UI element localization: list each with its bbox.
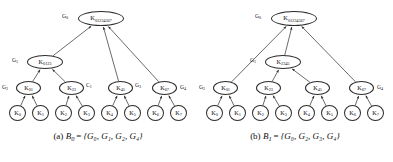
edge-b-k3-to-b-i23 bbox=[273, 96, 279, 106]
group-tag-c1: C1 bbox=[86, 83, 92, 89]
group-tag-subscript: 1 bbox=[254, 59, 256, 64]
key-subscript: 0 bbox=[19, 112, 21, 117]
key-node-k1: K1 bbox=[32, 105, 49, 121]
key-node-label: K45 bbox=[313, 85, 322, 91]
key-symbol: K bbox=[211, 109, 215, 116]
key-node-k7: K7 bbox=[170, 105, 187, 121]
figure-container: K01234567K0123K01K23K45K67K0K1K2K3K4K5K6… bbox=[0, 0, 393, 162]
group-tag-subscript: 1 bbox=[16, 59, 18, 64]
edge-b-i23-to-b-mid bbox=[272, 70, 278, 81]
group-tag-subscript: 0 bbox=[66, 15, 68, 20]
key-node-k01234567: K01234567 bbox=[78, 11, 124, 26]
figure-panel-b: K01234567K2345K01K23K45K67K0K1K2K3K4K5K6… bbox=[197, 0, 393, 162]
key-node-k45: K45 bbox=[305, 81, 330, 95]
group-tag-g3: G3 bbox=[135, 83, 141, 89]
key-subscript: 0123 bbox=[43, 61, 51, 66]
key-node-label: K6 bbox=[152, 110, 159, 116]
key-subscript: 4 bbox=[111, 112, 113, 117]
edge-a-k3-to-a-i23 bbox=[76, 96, 82, 106]
group-tag-g1: G1 bbox=[12, 58, 18, 64]
group-tag-g2: G2 bbox=[199, 85, 205, 91]
key-symbol: K bbox=[116, 84, 120, 91]
key-node-k5: K5 bbox=[124, 105, 141, 121]
key-tree-graph-b: K01234567K2345K01K23K45K67K0K1K2K3K4K5K6… bbox=[197, 0, 393, 128]
key-subscript: 6 bbox=[354, 112, 356, 117]
key-subscript: 7 bbox=[180, 112, 182, 117]
key-subscript: 67 bbox=[362, 87, 366, 92]
key-symbol: K bbox=[313, 84, 317, 91]
key-symbol: K bbox=[106, 109, 110, 116]
key-node-k67: K67 bbox=[349, 81, 374, 95]
key-node-label: K7 bbox=[175, 110, 182, 116]
key-symbol: K bbox=[234, 109, 238, 116]
key-symbol: K bbox=[349, 109, 353, 116]
edge-a-k1-to-a-i01 bbox=[32, 96, 37, 106]
group-tag-g2: G2 bbox=[2, 85, 8, 91]
key-node-label: K0123 bbox=[39, 59, 52, 65]
key-node-label: K23 bbox=[264, 85, 273, 91]
edge-a-i01-to-a-mid bbox=[33, 70, 40, 82]
caption-a-prefix: (a) bbox=[53, 131, 63, 141]
key-node-k6: K6 bbox=[147, 105, 164, 121]
key-node-label: K67 bbox=[160, 85, 169, 91]
key-symbol: K bbox=[280, 109, 284, 116]
key-node-label: K3 bbox=[280, 110, 287, 116]
key-subscript: 2345 bbox=[281, 61, 289, 66]
key-tree-graph-a: K01234567K0123K01K23K45K67K0K1K2K3K4K5K6… bbox=[0, 0, 196, 128]
group-tag-g4: G4 bbox=[180, 85, 186, 91]
key-node-label: K0 bbox=[211, 110, 218, 116]
edge-b-k4-to-b-i45 bbox=[310, 96, 314, 106]
edge-b-i01-to-b-root bbox=[232, 26, 287, 81]
key-subscript: 67 bbox=[165, 87, 169, 92]
caption-b: (b) B1={G₀, G₂, G₃, G₄} bbox=[197, 131, 393, 142]
group-tag-subscript: 1 bbox=[90, 84, 92, 89]
key-node-k2: K2 bbox=[55, 105, 72, 121]
key-node-label: K01234567 bbox=[283, 15, 304, 21]
key-symbol: K bbox=[129, 109, 133, 116]
edge-b-k2-to-b-i23 bbox=[263, 96, 266, 105]
key-node-k0: K0 bbox=[206, 105, 223, 121]
key-node-k0: K0 bbox=[9, 105, 26, 121]
key-node-k2: K2 bbox=[252, 105, 269, 121]
caption-a-subscript: 0 bbox=[71, 135, 74, 142]
key-subscript: 01234567 bbox=[288, 18, 305, 23]
key-node-label: K2 bbox=[60, 110, 67, 116]
key-subscript: 2 bbox=[262, 112, 264, 117]
key-symbol: K bbox=[264, 84, 268, 91]
key-subscript: 3 bbox=[88, 112, 90, 117]
key-subscript: 01 bbox=[226, 87, 230, 92]
edge-b-k1-to-b-i01 bbox=[229, 96, 234, 106]
key-subscript: 5 bbox=[134, 112, 136, 117]
caption-b-prefix: (b) bbox=[250, 131, 261, 141]
key-subscript: 2 bbox=[65, 112, 67, 117]
key-node-label: K7 bbox=[372, 110, 379, 116]
edge-a-k0-to-a-i01 bbox=[21, 96, 25, 106]
group-tag-subscript: 0 bbox=[259, 15, 261, 20]
caption-b-set: {G₀, G₂, G₃, G₄} bbox=[281, 131, 340, 141]
key-node-k01: K01 bbox=[16, 81, 41, 95]
edge-a-k5-to-a-i45 bbox=[124, 96, 129, 106]
key-node-k67: K67 bbox=[152, 81, 177, 95]
key-symbol: K bbox=[60, 109, 64, 116]
key-subscript: 6 bbox=[157, 112, 159, 117]
group-tag-subscript: 2 bbox=[6, 86, 8, 91]
key-subscript: 5 bbox=[331, 112, 333, 117]
key-symbol: K bbox=[175, 109, 179, 116]
key-node-label: K01 bbox=[221, 85, 230, 91]
figure-panel-a: K01234567K0123K01K23K45K67K0K1K2K3K4K5K6… bbox=[0, 0, 196, 162]
key-node-label: K01234567 bbox=[90, 15, 111, 21]
edge-b-k6-to-b-i67 bbox=[355, 96, 358, 105]
key-node-k1: K1 bbox=[229, 105, 246, 121]
key-node-label: K5 bbox=[326, 110, 333, 116]
key-node-k23: K23 bbox=[256, 81, 281, 95]
key-node-k5: K5 bbox=[321, 105, 338, 121]
key-symbol: K bbox=[14, 109, 18, 116]
key-node-k6: K6 bbox=[344, 105, 361, 121]
key-node-k4: K4 bbox=[298, 105, 315, 121]
edge-b-i45-to-b-mid bbox=[292, 69, 310, 82]
key-node-label: K4 bbox=[106, 110, 113, 116]
key-subscript: 1 bbox=[239, 112, 241, 117]
group-tag-g0: G0 bbox=[255, 14, 261, 20]
key-node-k3: K3 bbox=[78, 105, 95, 121]
key-node-k23: K23 bbox=[59, 81, 84, 95]
